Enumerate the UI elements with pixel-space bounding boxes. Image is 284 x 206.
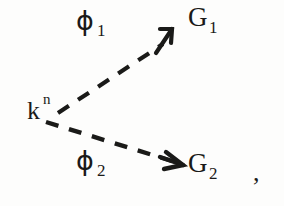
label-g-1: G1 (188, 4, 208, 31)
trailing-comma: , (253, 160, 260, 186)
g-2-symbol: G (188, 148, 208, 178)
phi-2-symbol: ϕ (76, 145, 94, 176)
k-superscript-n: n (43, 92, 51, 107)
phi-1-symbol: ϕ (76, 5, 94, 36)
g-1-symbol: G (188, 2, 208, 32)
upper-arrowhead-icon (156, 29, 172, 53)
phi-2-subscript: 2 (97, 162, 106, 179)
lower-arrowhead-icon (160, 152, 183, 169)
label-phi-1: ϕ1 (76, 7, 94, 34)
upper-dashed-line (58, 44, 163, 113)
label-phi-2: ϕ2 (76, 147, 94, 174)
g-2-subscript: 2 (209, 165, 218, 182)
phi-1-subscript: 1 (97, 22, 106, 39)
diagram-canvas: ϕ1 G1 kn ϕ2 G2 , (0, 0, 284, 206)
label-k-n: kn (27, 98, 40, 124)
k-symbol: k (27, 96, 40, 125)
g-1-subscript: 1 (209, 19, 218, 36)
lower-dashed-line (46, 122, 172, 161)
label-g-2: G2 (188, 150, 208, 177)
